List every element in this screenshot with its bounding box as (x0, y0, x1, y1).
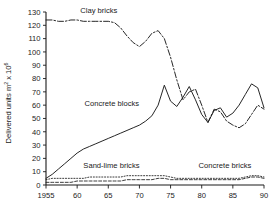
series-label-concrete-bricks: Concrete bricks (199, 161, 252, 170)
x-axis-tick-label: 90 (260, 191, 268, 200)
y-axis-tick-label: 100 (28, 48, 41, 57)
y-axis-tick-label: 50 (32, 114, 40, 123)
x-axis-tick-label: 80 (197, 191, 205, 200)
series-label-clay-bricks: Clay bricks (80, 6, 117, 15)
x-axis-tick-label: 1955 (38, 191, 55, 200)
y-axis-tick-label: 90 (32, 61, 40, 70)
y-axis-tick-label: 130 (28, 8, 41, 17)
y-axis-label-mid: x 10 (4, 65, 13, 81)
series-label-sand-lime-bricks: Sand-lime bricks (83, 161, 139, 170)
y-axis-tick-label: 80 (32, 74, 40, 83)
x-axis-tick-label: 60 (73, 191, 81, 200)
svg-text:Delivered units m2 x 106: Delivered units m2 x 106 (3, 62, 13, 143)
x-axis-tick-label: 85 (229, 191, 237, 200)
y-axis-tick-label: 70 (32, 88, 40, 97)
y-axis-tick-label: 40 (32, 128, 40, 137)
axes: 0102030405060708090100110120130 19556065… (28, 8, 268, 200)
x-axis-tick-label: 70 (135, 191, 143, 200)
y-axis-tick-label: 10 (32, 167, 40, 176)
x-axis-tick-labels: 195560657075808590 (38, 191, 269, 200)
data-series-group (46, 20, 264, 182)
y-axis-label: Delivered units m2 x 106 (3, 62, 13, 143)
x-axis-tick-label: 75 (166, 191, 174, 200)
y-axis-tick-label: 60 (32, 101, 40, 110)
series-label-concrete-blocks: Concrete blocks (85, 99, 140, 108)
y-axis-tick-label: 120 (28, 21, 41, 30)
y-axis-tick-label: 20 (32, 154, 40, 163)
chart-figure: Delivered units m2 x 106 010203040506070… (0, 0, 271, 210)
y-axis-tick-label: 0 (36, 181, 40, 190)
x-axis-tick-label: 65 (104, 191, 112, 200)
y-axis-label-text: Delivered units m (4, 85, 13, 144)
y-axis-tick-labels: 0102030405060708090100110120130 (28, 8, 41, 190)
y-axis-label-sup-exp: 6 (3, 62, 9, 65)
y-axis-tick-label: 110 (28, 34, 40, 43)
series-line-sand-lime-bricks (46, 176, 264, 180)
series-line-concrete-bricks (46, 177, 264, 182)
series-line-clay-bricks (46, 20, 264, 128)
line-chart: Delivered units m2 x 106 010203040506070… (0, 0, 271, 210)
y-axis-tick-label: 30 (32, 141, 40, 150)
